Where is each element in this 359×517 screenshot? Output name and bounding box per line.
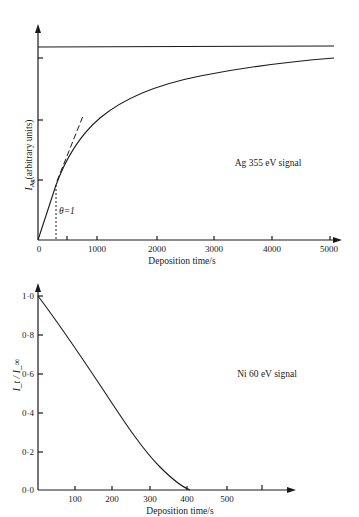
x-tick-label: 300 (143, 494, 157, 504)
y-tick-label: 1·0 (22, 291, 34, 301)
y-tick-label: 0·6 (22, 369, 34, 379)
ag-chart: 0 1000 2000 3000 4000 5000 Deposition ti… (24, 24, 342, 266)
y-axis-arrow-icon (35, 24, 41, 33)
svg-text:IAg(arbitrary units): IAg(arbitrary units) (24, 119, 35, 191)
ni-signal-label: Ni 60 eV signal (237, 369, 297, 379)
x-axis-label: Deposition time/s (146, 506, 214, 516)
y-tick-label: 0·8 (22, 330, 34, 340)
saturation-line (38, 46, 334, 47)
x-axis-label: Deposition time/s (148, 256, 216, 266)
figure: 0 1000 2000 3000 4000 5000 Deposition ti… (0, 0, 359, 517)
x-tick-label: 2000 (148, 244, 167, 254)
x-tick-label: 200 (105, 494, 119, 504)
ni-chart: 1·0 0·8 0·6 0·4 0·2 0·0 100 200 300 400 … (12, 283, 297, 516)
y-tick-label: 0·2 (22, 447, 34, 457)
y-axis-label: IAg(arbitrary units) (24, 119, 35, 191)
x-tick-label: 500 (220, 494, 234, 504)
x-tick-label: 0 (37, 244, 42, 254)
ag-signal-label: Ag 355 eV signal (235, 158, 302, 168)
y-axis-arrow-icon (35, 283, 41, 292)
y-tick-label: 0·0 (22, 485, 34, 495)
x-tick-label: 4000 (263, 244, 282, 254)
x-tick-label: 100 (68, 494, 82, 504)
x-axis-arrow-icon (287, 487, 296, 493)
ag-signal-curve (38, 58, 334, 240)
x-tick-label: 3000 (205, 244, 224, 254)
theta-label: θ=1 (59, 206, 75, 216)
x-axis-arrow-icon (333, 237, 342, 243)
initial-slope-dashed-line (57, 116, 83, 181)
y-axis-label: I_t / I_∞ (12, 358, 22, 392)
ni-signal-curve (38, 296, 190, 490)
x-tick-label: 1000 (88, 244, 107, 254)
x-tick-label: 400 (180, 494, 194, 504)
x-tick-label: 5000 (320, 244, 339, 254)
y-tick-label: 0·4 (22, 408, 34, 418)
